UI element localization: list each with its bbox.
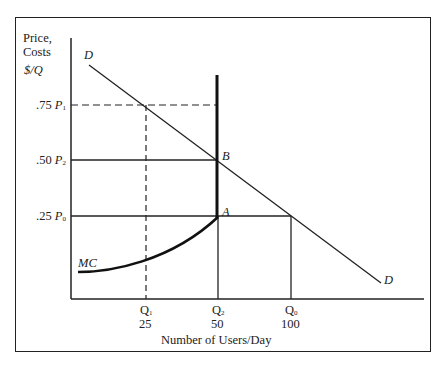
mc-curve [78, 217, 218, 272]
demand-curve [89, 65, 381, 283]
quantity-tick-q0-value: 100 [281, 318, 300, 331]
mc-label: MC [78, 257, 97, 270]
quantity-tick-q0: Q0 [285, 304, 298, 317]
y-axis-label-line1: Price, [23, 32, 52, 45]
y-axis-label-line2: Costs [23, 46, 51, 59]
demand-label-bottom: D [384, 274, 393, 287]
point-b-label: B [222, 150, 230, 163]
price-tick-p0: .25 P0 [36, 210, 66, 223]
point-a-label: A [222, 206, 230, 219]
quantity-tick-q1-value: 25 [139, 318, 152, 331]
demand-label-top: D [84, 49, 93, 62]
y-axis-label-line3: $/Q [24, 64, 43, 77]
price-tick-p1: .75 P1 [36, 99, 66, 112]
quantity-tick-q2-value: 50 [211, 318, 224, 331]
x-axis-label: Number of Users/Day [161, 334, 271, 347]
quantity-tick-q2: Q2 [212, 304, 225, 317]
price-tick-p2: .50 P2 [36, 154, 66, 167]
quantity-tick-q1: Q1 [140, 304, 153, 317]
